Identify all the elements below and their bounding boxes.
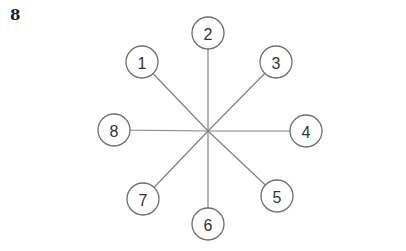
node-7: 7: [127, 183, 159, 215]
node-label-3: 3: [272, 55, 281, 72]
node-label-8: 8: [110, 123, 119, 140]
node-3: 3: [260, 46, 292, 78]
node-label-5: 5: [273, 189, 282, 206]
node-4: 4: [290, 115, 322, 147]
node-6: 6: [192, 208, 224, 240]
node-label-6: 6: [204, 217, 213, 234]
node-2: 2: [192, 17, 224, 49]
page: 8 1 2 3 4: [0, 0, 406, 251]
star-diagram: 1 2 3 4 5 6 7 8: [0, 0, 406, 251]
node-label-1: 1: [138, 55, 147, 72]
node-8: 8: [98, 114, 130, 146]
node-label-7: 7: [139, 192, 148, 209]
node-5: 5: [261, 180, 293, 212]
node-1: 1: [126, 46, 158, 78]
node-label-2: 2: [204, 26, 213, 43]
node-label-4: 4: [302, 124, 311, 141]
